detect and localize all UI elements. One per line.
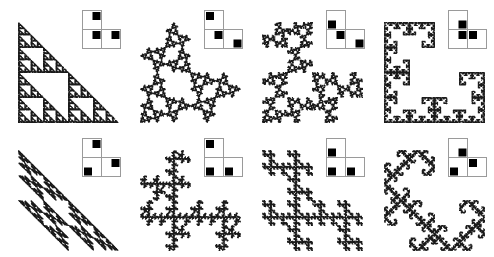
generator-glyph bbox=[326, 138, 366, 178]
fractal-panel-p6 bbox=[126, 134, 249, 257]
fractal-panel-p2 bbox=[126, 6, 249, 134]
fractal-panel-p5 bbox=[4, 134, 127, 257]
generator-glyph bbox=[82, 10, 122, 50]
fractal-panel-p8 bbox=[370, 134, 493, 257]
fractal-panel-p7 bbox=[248, 134, 371, 257]
fractal-panel-p1 bbox=[4, 6, 127, 134]
fractal-panel-p3 bbox=[248, 6, 371, 134]
generator-glyph bbox=[448, 10, 488, 50]
fractal-panel-p4 bbox=[370, 6, 493, 134]
generator-glyph bbox=[448, 138, 488, 178]
generator-glyph bbox=[82, 138, 122, 178]
generator-glyph bbox=[204, 10, 244, 50]
generator-glyph bbox=[204, 138, 244, 178]
generator-glyph bbox=[326, 10, 366, 50]
